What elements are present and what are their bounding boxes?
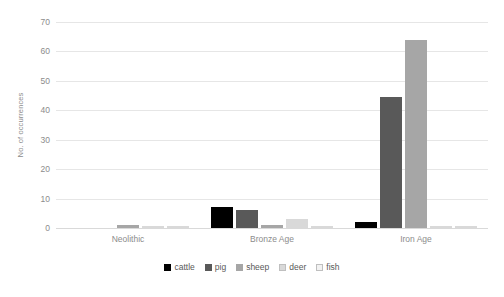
bar-slot — [455, 22, 477, 228]
bar-groups — [56, 22, 488, 228]
y-axis-tick-label: 70 — [10, 18, 50, 27]
bar-cattle-bronze-age — [211, 207, 233, 228]
y-axis-tick-label: 0 — [10, 224, 50, 233]
legend-label-fish: fish — [326, 262, 339, 272]
legend-swatch-sheep — [236, 264, 243, 271]
chart-legend: cattlepigsheepdeerfish — [0, 262, 504, 272]
legend-label-cattle: cattle — [174, 262, 194, 272]
bar-slot — [355, 22, 377, 228]
x-axis-label-iron-age: Iron Age — [344, 231, 488, 247]
bar-pig-bronze-age — [236, 210, 258, 228]
legend-swatch-fish — [316, 264, 323, 271]
y-axis-tick-label: 20 — [10, 165, 50, 174]
bar-slot — [430, 22, 452, 228]
bar-group — [344, 22, 488, 228]
bar-slot — [92, 22, 114, 228]
bar-group — [200, 22, 344, 228]
bar-chart: No. of occurrences 010203040506070 Neoli… — [0, 0, 504, 297]
x-axis-category-labels: NeolithicBronze AgeIron Age — [56, 231, 488, 247]
bar-slot — [67, 22, 89, 228]
bar-sheep-neolithic — [117, 225, 139, 228]
bar-pig-iron-age — [380, 97, 402, 228]
bar-slot — [167, 22, 189, 228]
bar-group — [56, 22, 200, 228]
y-axis-tick-label: 50 — [10, 76, 50, 85]
legend-swatch-deer — [279, 264, 286, 271]
bar-slot — [117, 22, 139, 228]
y-axis-tick-label: 30 — [10, 135, 50, 144]
legend-item-fish[interactable]: fish — [316, 262, 339, 272]
bar-sheep-bronze-age — [261, 225, 283, 228]
gridline — [56, 228, 488, 229]
legend-swatch-cattle — [164, 264, 171, 271]
y-axis-tick-label: 10 — [10, 194, 50, 203]
legend-swatch-pig — [205, 264, 212, 271]
bar-deer-bronze-age — [286, 219, 308, 228]
y-axis-tick-label: 60 — [10, 47, 50, 56]
x-axis-label-neolithic: Neolithic — [56, 231, 200, 247]
bar-deer-iron-age — [430, 226, 452, 228]
legend-label-pig: pig — [215, 262, 226, 272]
bar-sheep-iron-age — [405, 40, 427, 228]
legend-label-sheep: sheep — [246, 262, 269, 272]
bar-slot — [286, 22, 308, 228]
bar-slot — [405, 22, 427, 228]
bar-slot — [142, 22, 164, 228]
legend-item-deer[interactable]: deer — [279, 262, 306, 272]
bar-fish-bronze-age — [311, 226, 333, 228]
y-axis-tick-labels: 010203040506070 — [0, 22, 50, 228]
bar-slot — [261, 22, 283, 228]
legend-label-deer: deer — [289, 262, 306, 272]
bar-slot — [380, 22, 402, 228]
bar-slot — [311, 22, 333, 228]
bar-slot — [211, 22, 233, 228]
legend-item-pig[interactable]: pig — [205, 262, 226, 272]
legend-item-cattle[interactable]: cattle — [164, 262, 194, 272]
bar-fish-iron-age — [455, 226, 477, 228]
plot-area — [56, 22, 488, 228]
legend-item-sheep[interactable]: sheep — [236, 262, 269, 272]
bar-deer-neolithic — [142, 226, 164, 228]
bar-cattle-iron-age — [355, 222, 377, 228]
y-axis-tick-label: 40 — [10, 106, 50, 115]
bar-slot — [236, 22, 258, 228]
bar-fish-neolithic — [167, 226, 189, 228]
x-axis-label-bronze-age: Bronze Age — [200, 231, 344, 247]
